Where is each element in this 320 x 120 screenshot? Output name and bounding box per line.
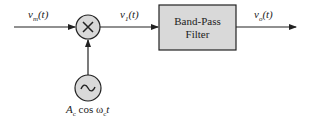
mixer-output-label: v1(t) <box>120 8 139 23</box>
filter-label-line2: Filter <box>186 28 210 41</box>
filter-label-line1: Band-Pass <box>174 15 220 28</box>
input-signal-label: vm(t) <box>28 8 48 23</box>
filter-label: Band-Pass Filter <box>159 5 236 50</box>
oscillator-label: Ac cos ωct <box>66 103 109 118</box>
output-signal-label: vo(t) <box>254 8 273 23</box>
